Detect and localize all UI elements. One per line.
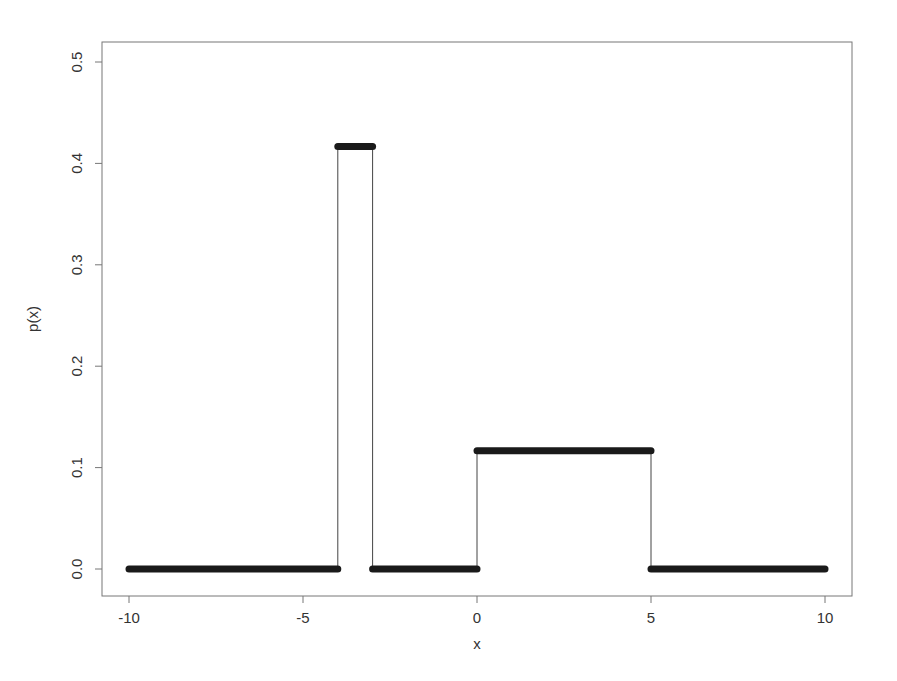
y-tick-label: 0.4 xyxy=(68,153,85,174)
y-tick-label: 0.2 xyxy=(68,356,85,377)
y-axis-title: p(x) xyxy=(24,306,41,332)
x-tick-label: 5 xyxy=(647,609,655,626)
x-tick-label: 10 xyxy=(817,609,834,626)
density-plot: 0.00.10.20.30.40.5 -10-50510 x p(x) xyxy=(0,0,897,681)
y-tick-label: 0.0 xyxy=(68,559,85,580)
x-axis-title: x xyxy=(473,635,481,652)
density-series xyxy=(129,146,825,569)
y-axis: 0.00.10.20.30.40.5 xyxy=(68,52,102,580)
x-tick-label: 0 xyxy=(473,609,481,626)
x-axis: -10-50510 xyxy=(118,596,833,626)
y-tick-label: 0.1 xyxy=(68,457,85,478)
x-tick-label: -5 xyxy=(296,609,309,626)
x-tick-label: -10 xyxy=(118,609,140,626)
y-tick-label: 0.3 xyxy=(68,254,85,275)
y-tick-label: 0.5 xyxy=(68,52,85,73)
